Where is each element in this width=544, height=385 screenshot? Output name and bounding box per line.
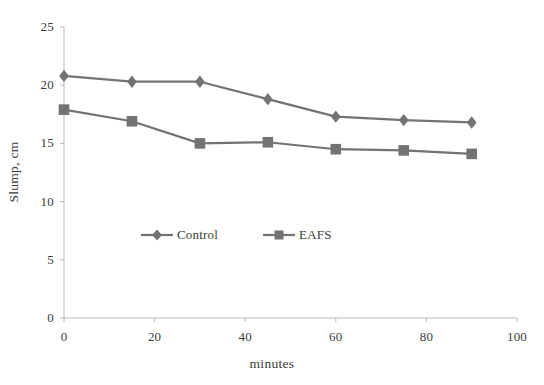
plot-area	[0, 0, 544, 385]
data-point-marker-diamond	[127, 76, 137, 88]
y-axis-title: Slump, cm	[6, 141, 22, 202]
legend-label-eafs: EAFS	[298, 227, 332, 243]
y-tick-label: 20	[22, 77, 54, 93]
data-point-marker-diamond	[263, 93, 273, 105]
y-tick-label: 25	[22, 19, 54, 35]
data-point-marker-diamond	[195, 76, 205, 88]
x-axis-title: minutes	[0, 356, 544, 372]
data-point-marker-square	[466, 149, 477, 160]
x-tick-label: 60	[329, 329, 342, 345]
x-tick-label: 40	[238, 329, 251, 345]
data-point-marker-diamond	[399, 114, 409, 126]
data-point-marker-square	[263, 137, 274, 148]
data-point-marker-diamond	[59, 70, 69, 82]
square-icon	[262, 228, 296, 242]
data-point-marker-square	[127, 116, 138, 127]
y-tick-label: 0	[22, 310, 54, 326]
y-tick-label: 15	[22, 135, 54, 151]
y-tick-label: 10	[22, 194, 54, 210]
y-tick-label: 5	[22, 252, 54, 268]
x-tick-label: 0	[61, 329, 68, 345]
data-point-marker-diamond	[467, 116, 477, 128]
x-tick-label: 20	[148, 329, 161, 345]
diamond-icon	[140, 228, 174, 242]
data-point-marker-diamond	[331, 110, 341, 122]
data-point-marker-square	[59, 104, 70, 115]
legend-entry-control: Control	[140, 227, 218, 243]
slump-vs-time-line-chart: Slump, cm minutes 0510152025020406080100…	[0, 0, 544, 385]
legend-label-control: Control	[176, 227, 218, 243]
x-tick-label: 100	[507, 329, 527, 345]
data-point-marker-square	[195, 138, 206, 149]
data-point-marker-square	[331, 144, 342, 155]
legend-entry-eafs: EAFS	[262, 227, 332, 243]
data-point-marker-square	[398, 145, 409, 156]
x-tick-label: 80	[420, 329, 433, 345]
